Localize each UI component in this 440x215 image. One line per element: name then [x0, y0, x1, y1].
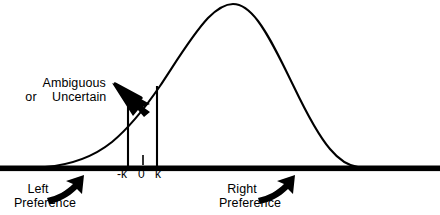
annotation-right-preference-line1: Right [204, 182, 296, 196]
axis-baseline [0, 166, 440, 172]
annotation-left-preference: Left Preference [2, 182, 88, 210]
annotation-ambiguous-uncertain-word: Uncertain [40, 90, 106, 104]
annotation-right-preference: Right Preference [204, 182, 296, 210]
ambiguous-arrow-icon [112, 83, 150, 117]
axis-tick-label-zero: 0 [138, 168, 145, 181]
axis-tick-label-pos-k: k [155, 168, 161, 181]
annotation-left-preference-line1: Left [2, 182, 88, 196]
annotation-ambiguous-line1: Ambiguous [22, 76, 106, 90]
annotation-ambiguous-uncertain: Ambiguous orUncertain [22, 76, 106, 104]
annotation-left-preference-line2: Preference [14, 196, 76, 210]
annotation-right-preference-line2: Preference [219, 196, 281, 210]
annotation-ambiguous-line2: orUncertain [22, 90, 106, 104]
annotation-ambiguous-or: or [22, 90, 40, 104]
axis-tick-label-neg-k: -k [117, 168, 127, 181]
normal-distribution-figure: Ambiguous orUncertain Left Preference Ri… [0, 0, 440, 215]
